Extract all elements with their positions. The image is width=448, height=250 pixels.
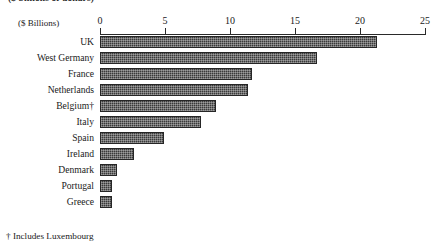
bar xyxy=(100,196,112,208)
x-axis-tick-mark xyxy=(295,28,296,35)
bar-row: Belgium† xyxy=(0,99,448,115)
bar-row: Portugal xyxy=(0,179,448,195)
chart-footnote: † Includes Luxembourg xyxy=(6,231,94,241)
category-label: Spain xyxy=(72,132,94,144)
bar xyxy=(100,164,117,176)
bar-row: Greece xyxy=(0,195,448,211)
category-label: Italy xyxy=(76,116,94,128)
category-label: West Germany xyxy=(37,52,94,64)
x-axis-tick-mark xyxy=(100,28,101,35)
bar-row: Spain xyxy=(0,131,448,147)
bar xyxy=(100,132,164,144)
bar xyxy=(100,100,216,112)
bar xyxy=(100,84,248,96)
bar xyxy=(100,36,377,48)
bar xyxy=(100,68,252,80)
axis-units-label: ($ Billions) xyxy=(18,18,59,28)
x-axis-tick-mark xyxy=(425,28,426,35)
bar xyxy=(100,52,317,64)
bar-row: Netherlands xyxy=(0,83,448,99)
category-label: Belgium† xyxy=(56,100,94,112)
x-axis-tick-mark xyxy=(230,28,231,35)
x-axis-tick-label: 5 xyxy=(163,15,168,26)
category-label: UK xyxy=(80,36,94,48)
category-label: Netherlands xyxy=(48,84,94,96)
bar xyxy=(100,116,201,128)
bar-row: Italy xyxy=(0,115,448,131)
x-axis-tick-label: 20 xyxy=(355,15,365,26)
figure-title-clipped: ($ billions of dollars) xyxy=(8,0,308,5)
category-label: Greece xyxy=(67,196,94,208)
category-label: Denmark xyxy=(58,164,94,176)
x-axis-tick-label: 15 xyxy=(290,15,300,26)
bar-row: Ireland xyxy=(0,147,448,163)
x-axis-tick-mark xyxy=(165,28,166,35)
category-label: Portugal xyxy=(61,180,94,192)
x-axis-tick-label: 0 xyxy=(98,15,103,26)
bar-row: West Germany xyxy=(0,51,448,67)
category-label: Ireland xyxy=(67,148,94,160)
bar-row: Denmark xyxy=(0,163,448,179)
x-axis-tick-label: 25 xyxy=(420,15,430,26)
x-axis-tick-mark xyxy=(360,28,361,35)
bar xyxy=(100,180,112,192)
bar-chart-figure: ($ billions of dollars) ($ Billions) 051… xyxy=(0,0,448,250)
x-axis-tick-label: 10 xyxy=(225,15,235,26)
bar-row: UK xyxy=(0,35,448,51)
category-label: France xyxy=(68,68,94,80)
bar xyxy=(100,148,134,160)
bar-row: France xyxy=(0,67,448,83)
